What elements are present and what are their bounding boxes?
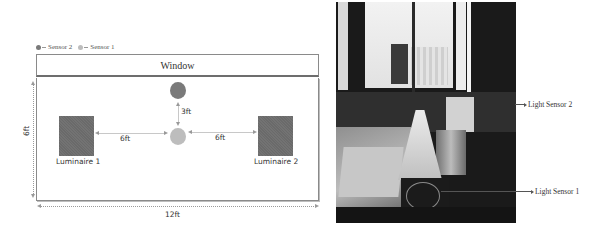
arrow-left-icon — [188, 130, 192, 134]
sensor-1-swatch-icon — [78, 45, 83, 50]
legend-label: Sensor 1 — [90, 43, 114, 51]
window: Window — [36, 54, 319, 77]
legend-line-icon — [84, 47, 88, 48]
dimension-line-room-depth — [33, 84, 34, 196]
arrow-right-icon — [164, 131, 168, 135]
dimension-line-6ft-left — [97, 133, 166, 134]
sensor-2-swatch-icon — [36, 45, 41, 50]
photo-paper — [338, 147, 403, 197]
arrow-up-icon — [31, 81, 35, 85]
luminaire-1 — [59, 116, 94, 156]
dimension-label-6ft-left: 6ft — [120, 134, 130, 143]
callout-label: Light Sensor 2 — [528, 100, 572, 109]
arrow-left-icon — [95, 131, 99, 135]
photo-sensor-1-ring — [406, 182, 440, 210]
photo-building-facade — [411, 47, 448, 85]
photo-building — [391, 44, 408, 84]
arrow-left-icon — [37, 204, 41, 208]
photo-cylinder — [436, 130, 466, 175]
arrow-right-icon — [253, 130, 257, 134]
sensor-1-marker — [170, 128, 186, 145]
dimension-line-3ft — [178, 105, 179, 123]
legend-item-sensor-2: Sensor 2 — [36, 43, 72, 51]
arrow-up-icon — [176, 102, 180, 106]
arrow-down-icon — [31, 194, 35, 198]
sensor-2-marker — [170, 82, 186, 99]
dimension-line-room-width — [40, 206, 316, 207]
dimension-label-room-width: 12ft — [165, 210, 180, 219]
luminaire-1-label: Luminaire 1 — [56, 157, 100, 166]
callout-light-sensor-2: Light Sensor 2 — [515, 100, 572, 109]
callout-light-sensor-1: Light Sensor 1 — [441, 187, 579, 196]
photo-window-strip — [467, 2, 471, 94]
photo-pole — [412, 2, 415, 94]
legend-item-sensor-1: Sensor 1 — [78, 43, 114, 51]
luminaire-2 — [258, 116, 293, 156]
photo-bottom-edge — [336, 207, 516, 223]
arrow-right-icon — [315, 204, 319, 208]
window-label: Window — [37, 60, 318, 71]
photo-window-right — [456, 2, 466, 90]
photo-window-left — [338, 2, 348, 90]
luminaire-2-label: Luminaire 2 — [254, 157, 298, 166]
arrow-right-icon — [524, 103, 527, 107]
legend-line-icon — [42, 47, 46, 48]
arrow-down-icon — [176, 122, 180, 126]
callout-label: Light Sensor 1 — [535, 187, 579, 196]
callout-leader-line — [441, 191, 531, 192]
photo-box — [446, 97, 474, 132]
arrow-right-icon — [531, 190, 534, 194]
legend: Sensor 2 Sensor 1 — [36, 42, 121, 52]
dimension-label-6ft-right: 6ft — [215, 133, 225, 142]
callout-leader-line — [515, 104, 524, 105]
dimension-label-room-depth: 6ft — [22, 126, 31, 136]
dimension-label-3ft: 3ft — [181, 107, 191, 116]
legend-label: Sensor 2 — [48, 43, 72, 51]
